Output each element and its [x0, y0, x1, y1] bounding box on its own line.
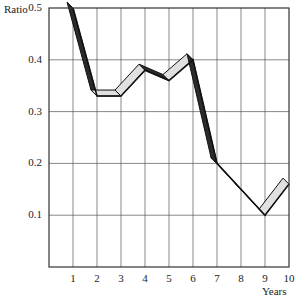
y-tick-label: 0.3 [12, 105, 42, 117]
x-tick-label: 1 [63, 272, 83, 284]
data-ribbon [67, 2, 289, 215]
x-tick-label: 8 [231, 272, 251, 284]
x-tick-label: 3 [111, 272, 131, 284]
y-tick-label: 0.4 [12, 53, 42, 65]
x-tick-label: 10 [279, 272, 295, 284]
x-tick-label: 5 [159, 272, 179, 284]
x-tick-label: 9 [255, 272, 275, 284]
x-tick-label: 7 [207, 272, 227, 284]
y-tick-label: 0.2 [12, 156, 42, 168]
x-axis-label: Years [262, 285, 287, 297]
y-tick-label: 0.5 [12, 1, 42, 13]
y-tick-label: 0.1 [12, 208, 42, 220]
x-tick-label: 4 [135, 272, 155, 284]
ribbon-line-chart [0, 0, 295, 300]
ribbon-segment [259, 178, 289, 215]
ribbon-segment [115, 64, 145, 96]
x-tick-label: 6 [183, 272, 203, 284]
chart-grid [49, 8, 289, 267]
x-tick-label: 2 [87, 272, 107, 284]
